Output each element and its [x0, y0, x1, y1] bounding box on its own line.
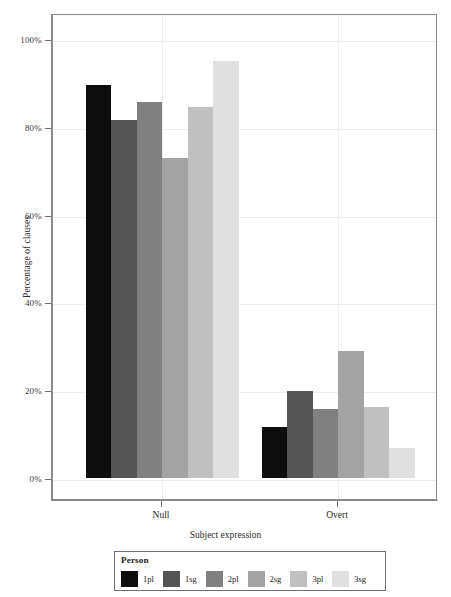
y-tick-mark-60%: [45, 216, 51, 217]
x-axis-title: Subject expression: [0, 530, 451, 540]
legend-item-3pl[interactable]: 3pl: [290, 571, 323, 587]
legend-item-2pl[interactable]: 2pl: [206, 571, 239, 587]
y-tick-mark-100%: [45, 40, 51, 41]
bar-overt-1sg: [287, 391, 313, 478]
legend-swatch-3pl: [290, 571, 307, 587]
bar-null-2sg: [162, 158, 188, 478]
legend-item-1pl[interactable]: 1pl: [121, 571, 154, 587]
legend-swatch-3sg: [332, 571, 349, 587]
x-axis-line: [52, 500, 438, 501]
x-tick-label-overt: Overt: [326, 510, 348, 520]
y-tick-mark-0%: [45, 479, 51, 480]
chart-figure: 0%20%40%60%80%100% Percentage of clauses…: [0, 0, 451, 597]
legend-item-1sg[interactable]: 1sg: [163, 571, 197, 587]
legend-swatch-1pl: [121, 571, 138, 587]
legend-label-1pl: 1pl: [143, 574, 154, 584]
gridline-y-0%: [53, 480, 436, 481]
y-tick-mark-40%: [45, 303, 51, 304]
legend-label-1sg: 1sg: [185, 574, 197, 584]
legend-label-2sg: 2sg: [270, 574, 282, 584]
y-tick-mark-20%: [45, 391, 51, 392]
legend-swatch-1sg: [163, 571, 180, 587]
legend: Person 1pl1sg2pl2sg3pl3sg: [114, 551, 386, 591]
bar-overt-2pl: [313, 409, 339, 478]
bar-overt-3pl: [364, 407, 390, 478]
bar-overt-1pl: [262, 427, 288, 478]
y-tick-mark-80%: [45, 128, 51, 129]
legend-item-2sg[interactable]: 2sg: [248, 571, 282, 587]
bar-overt-3sg: [389, 448, 415, 478]
y-axis-line: [51, 14, 52, 501]
bar-null-1sg: [111, 120, 137, 478]
y-axis-title-wrap: Percentage of clauses: [19, 0, 35, 597]
bar-null-2pl: [137, 102, 163, 478]
legend-items: 1pl1sg2pl2sg3pl3sg: [121, 569, 381, 589]
legend-label-3sg: 3sg: [354, 574, 366, 584]
bar-overt-2sg: [338, 351, 364, 478]
x-tick-mark-null: [161, 501, 162, 507]
y-axis-title: Percentage of clauses: [22, 167, 32, 347]
legend-label-3pl: 3pl: [312, 574, 323, 584]
plot-panel: [52, 14, 437, 500]
x-tick-label-null: Null: [153, 510, 170, 520]
legend-swatch-2sg: [248, 571, 265, 587]
bar-null-1pl: [86, 85, 112, 478]
legend-title: Person: [121, 555, 149, 565]
legend-swatch-2pl: [206, 571, 223, 587]
legend-label-2pl: 2pl: [228, 574, 239, 584]
gridline-y-100%: [53, 41, 436, 42]
bar-null-3sg: [213, 61, 239, 478]
bar-null-3pl: [188, 107, 214, 478]
x-tick-mark-overt: [337, 501, 338, 507]
legend-item-3sg[interactable]: 3sg: [332, 571, 366, 587]
